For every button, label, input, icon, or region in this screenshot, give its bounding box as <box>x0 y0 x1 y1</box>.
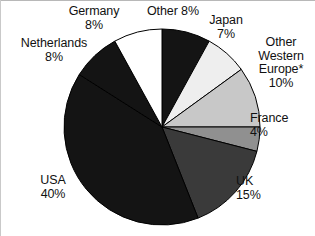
slice-label-japan: Japan 7% <box>196 14 256 41</box>
slice-label-netherlands: Netherlands 8% <box>6 37 102 64</box>
slice-label-uk: UK 15% <box>236 175 284 202</box>
slice-label-germany: Germany 8% <box>46 5 142 32</box>
slice-label-usa: USA 40% <box>22 174 84 201</box>
pie-chart-figure: Germany 8% Other 8% Japan 7% Netherlands… <box>0 0 315 236</box>
slice-label-other-western-europe: Other Western Europe* 10% <box>249 36 313 90</box>
slice-label-france: France 4% <box>250 112 312 139</box>
